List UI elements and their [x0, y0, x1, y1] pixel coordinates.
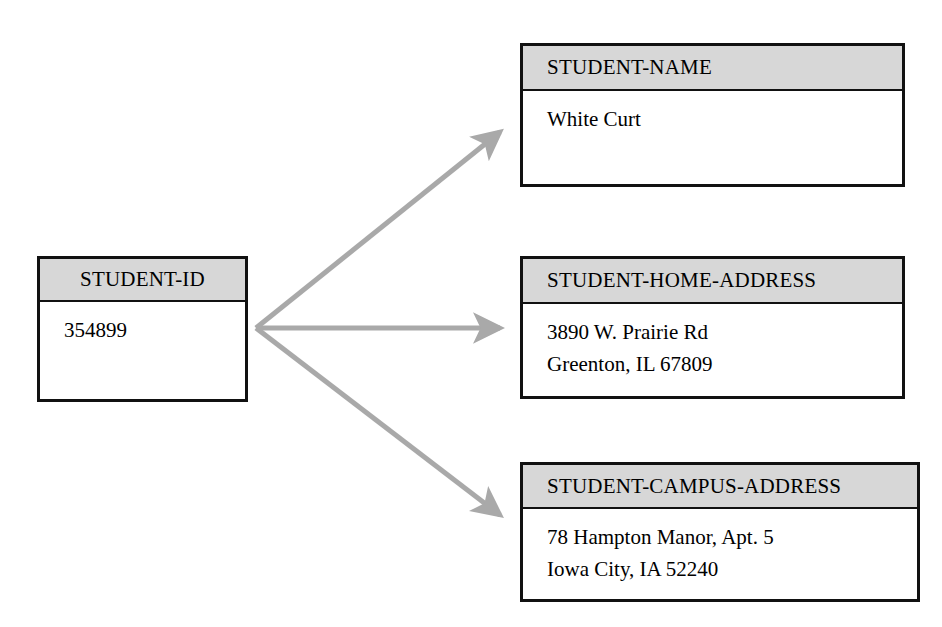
entity-box-student-id: STUDENT-ID 354899	[37, 256, 248, 402]
entity-box-student-campus-address: STUDENT-CAMPUS-ADDRESS 78 Hampton Manor,…	[520, 462, 920, 602]
entity-value: 78 Hampton Manor, Apt. 5	[547, 522, 917, 554]
entity-body-student-home-address: 3890 W. Prairie Rd Greenton, IL 67809	[523, 304, 902, 380]
entity-header-student-campus-address: STUDENT-CAMPUS-ADDRESS	[523, 465, 917, 509]
entity-value: White Curt	[547, 104, 902, 136]
entity-value: Greenton, IL 67809	[547, 349, 902, 381]
entity-body-student-id: 354899	[40, 302, 245, 347]
entity-value: 354899	[64, 315, 245, 347]
entity-body-student-campus-address: 78 Hampton Manor, Apt. 5 Iowa City, IA 5…	[523, 509, 917, 585]
entity-box-student-home-address: STUDENT-HOME-ADDRESS 3890 W. Prairie Rd …	[520, 256, 905, 399]
arrow-to-campus-address	[256, 328, 500, 515]
entity-header-student-id: STUDENT-ID	[40, 259, 245, 302]
entity-box-student-name: STUDENT-NAME White Curt	[520, 43, 905, 187]
diagram-canvas: STUDENT-ID 354899 STUDENT-NAME White Cur…	[0, 0, 942, 627]
entity-value: Iowa City, IA 52240	[547, 554, 917, 586]
entity-header-student-name: STUDENT-NAME	[523, 46, 902, 91]
entity-header-student-home-address: STUDENT-HOME-ADDRESS	[523, 259, 902, 304]
entity-value: 3890 W. Prairie Rd	[547, 317, 902, 349]
arrow-to-student-name	[256, 132, 500, 328]
entity-body-student-name: White Curt	[523, 91, 902, 136]
